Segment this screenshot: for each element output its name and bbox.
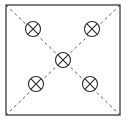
fixture-bottom-right[interactable] <box>83 77 98 92</box>
diagram-canvas <box>0 0 127 123</box>
fixture-top-left[interactable] <box>26 22 41 37</box>
fixture-bottom-left[interactable] <box>29 77 44 92</box>
fixture-top-right[interactable] <box>85 22 100 37</box>
figure-container: Square enclosure with dashed diagonals a… <box>0 0 127 123</box>
fixture-center[interactable] <box>56 53 71 68</box>
